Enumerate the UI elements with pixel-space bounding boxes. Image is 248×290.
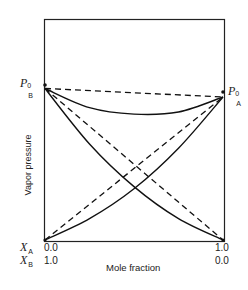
xb-subscript: B	[28, 261, 33, 268]
pa0-point	[221, 90, 225, 94]
y-axis-label: Vapor pressure	[23, 135, 33, 196]
series-layer	[45, 88, 223, 240]
series-line-0	[45, 88, 223, 97]
xb-right-tick: 0.0	[215, 255, 229, 266]
pa0-subscript: A	[236, 100, 241, 107]
pb0-superscript: 0	[27, 82, 31, 89]
xa-left-tick: 0.0	[44, 242, 58, 253]
xa-right-tick: 1.0	[215, 242, 229, 253]
pb0-subscript: B	[28, 92, 33, 99]
pa0-superscript: 0	[235, 90, 239, 97]
xa-symbol: X	[20, 240, 27, 254]
series-line-2	[45, 97, 223, 240]
xb-label: XB	[20, 253, 33, 268]
pa0-label: P0A	[228, 84, 242, 99]
x-axis-label: Mole fraction	[106, 262, 160, 273]
pb0-point	[43, 83, 47, 87]
pb0-label: P0B	[20, 76, 34, 91]
chart-canvas	[0, 0, 248, 290]
plot-frame	[45, 20, 225, 242]
xb-left-tick: 1.0	[44, 255, 58, 266]
pa0-symbol: P	[228, 84, 235, 98]
series-line-1	[45, 88, 223, 240]
pb0-symbol: P	[20, 76, 27, 90]
xb-symbol: X	[20, 253, 27, 267]
